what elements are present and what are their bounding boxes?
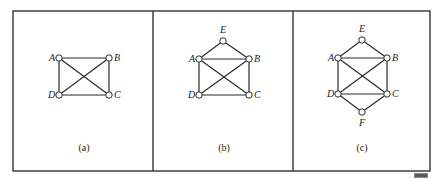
- node-label-C: C: [392, 88, 399, 99]
- edge-C-F: [362, 94, 387, 112]
- node-B: [246, 56, 252, 62]
- node-label-A: A: [188, 53, 196, 64]
- node-C: [106, 92, 112, 98]
- node-B: [106, 55, 112, 61]
- node-E: [359, 37, 365, 43]
- node-C: [246, 92, 252, 98]
- node-E: [220, 38, 226, 44]
- node-D: [56, 92, 62, 98]
- panel-a: ABDC(a): [47, 52, 121, 154]
- corner-mark: [414, 173, 428, 178]
- node-label-B: B: [254, 53, 260, 64]
- node-label-A: A: [48, 52, 56, 63]
- panel-caption-a: (a): [78, 142, 89, 154]
- panel-b: EABDC(b): [187, 24, 261, 154]
- graph-figure: ABDC(a)EABDC(b)EABDCF(c): [0, 0, 441, 179]
- node-B: [384, 55, 390, 61]
- node-label-D: D: [187, 89, 196, 100]
- edge-E-B: [362, 40, 387, 58]
- edge-D-F: [338, 94, 362, 112]
- node-D: [196, 92, 202, 98]
- node-D: [335, 91, 341, 97]
- panels: ABDC(a)EABDC(b)EABDCF(c): [47, 23, 399, 154]
- panel-caption-c: (c): [356, 142, 367, 154]
- node-F: [359, 109, 365, 115]
- node-A: [335, 55, 341, 61]
- edge-E-B: [223, 41, 249, 59]
- node-label-D: D: [47, 89, 56, 100]
- node-label-E: E: [219, 24, 226, 35]
- node-label-C: C: [254, 89, 261, 100]
- node-label-D: D: [326, 88, 335, 99]
- edge-E-A: [338, 40, 362, 58]
- node-label-E: E: [358, 23, 365, 34]
- node-label-C: C: [114, 89, 121, 100]
- edge-E-A: [199, 41, 223, 59]
- panel-c: EABDCF(c): [326, 23, 399, 154]
- node-A: [196, 56, 202, 62]
- node-label-B: B: [392, 52, 398, 63]
- node-label-A: A: [327, 52, 335, 63]
- node-A: [56, 55, 62, 61]
- node-label-F: F: [358, 117, 366, 128]
- node-label-B: B: [114, 52, 120, 63]
- panel-caption-b: (b): [218, 142, 230, 154]
- node-C: [384, 91, 390, 97]
